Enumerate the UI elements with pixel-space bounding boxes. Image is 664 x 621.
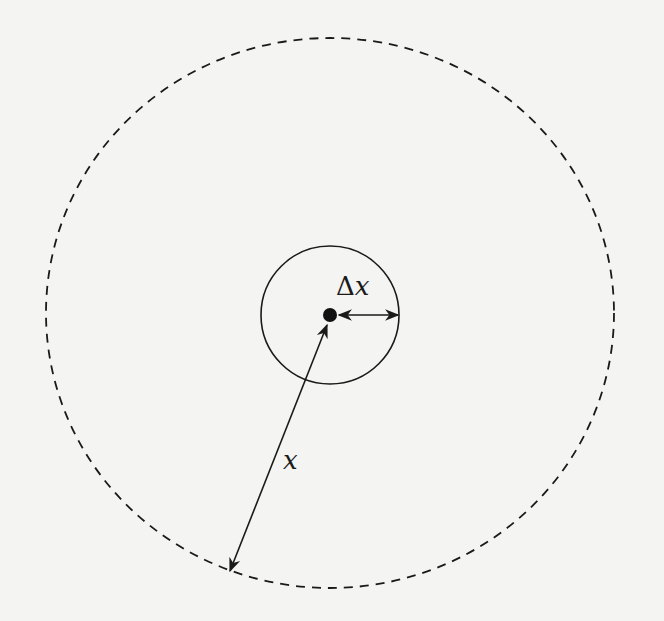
radius-variable: x <box>283 445 298 475</box>
diagram-canvas <box>0 0 664 621</box>
center-point <box>323 308 337 322</box>
delta-variable: x <box>355 271 370 301</box>
delta-x-label: Δx <box>336 273 369 299</box>
delta-symbol: Δ <box>336 271 355 301</box>
x-label: x <box>283 447 298 473</box>
